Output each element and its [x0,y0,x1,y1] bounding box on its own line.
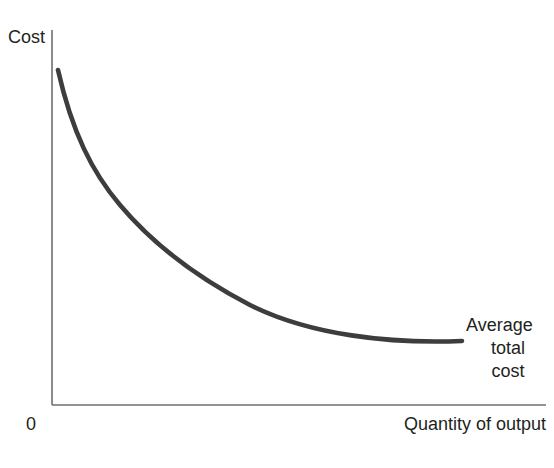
curve-annotation-line-2: total [466,337,550,360]
origin-label: 0 [26,414,36,435]
y-axis-title: Cost [8,27,45,48]
x-axis-title: Quantity of output [404,414,546,435]
curve-annotation-line-1: Average [466,314,550,337]
average-total-cost-chart: Cost Quantity of output 0 Average total … [0,0,554,468]
curve-annotation-average-total-cost: Average total cost [466,314,550,383]
chart-plot-area [0,0,554,468]
average-total-cost-curve [58,70,462,342]
curve-annotation-line-3: cost [466,360,550,383]
